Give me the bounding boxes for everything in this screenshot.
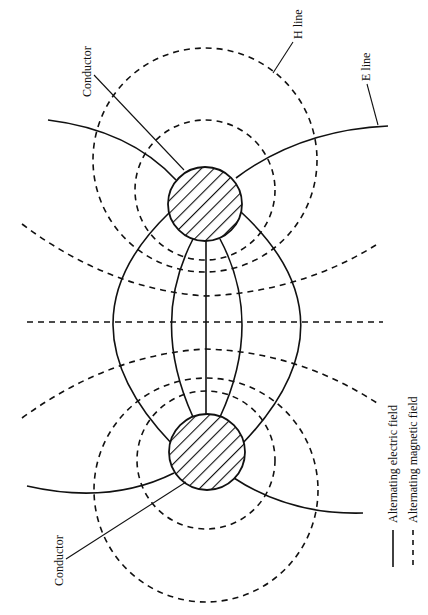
legend-electric-label: Alternating electric field	[386, 405, 400, 523]
legend: Alternating electric field Alternating m…	[386, 396, 420, 567]
magnetic-field-lines-middle	[22, 224, 383, 418]
conductor-top	[168, 167, 242, 241]
field-diagram: Conductor Conductor H line E line Altern…	[0, 0, 428, 615]
conductor-bottom-label: Conductor	[52, 535, 66, 586]
legend-magnetic-label: Alternating magnetic field	[406, 396, 420, 523]
e-line-label: E line	[359, 53, 373, 81]
conductor-bottom	[169, 414, 245, 490]
conductor-top-label: Conductor	[80, 46, 94, 97]
h-line-label: H line	[291, 9, 305, 39]
